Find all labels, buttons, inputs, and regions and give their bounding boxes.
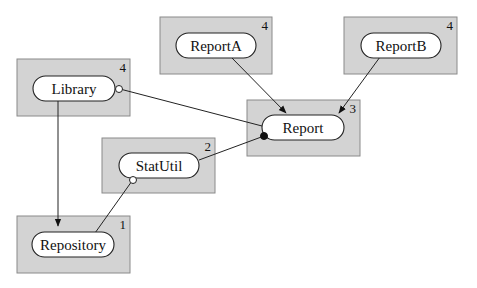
- node-label: Report: [283, 120, 325, 136]
- node-label: Library: [52, 81, 97, 97]
- pill-statutil[interactable]: StatUtil: [119, 153, 199, 178]
- pill-repository[interactable]: Repository: [32, 232, 114, 257]
- pill-library[interactable]: Library: [33, 76, 115, 101]
- filled-circle-icon: [261, 133, 268, 140]
- node-label: ReportA: [190, 38, 242, 54]
- node-label: ReportB: [376, 38, 427, 54]
- pill-report[interactable]: Report: [262, 115, 344, 140]
- level-badge: 2: [205, 139, 212, 154]
- edge-library-report: [120, 89, 262, 126]
- pill-reporta[interactable]: ReportA: [176, 33, 256, 58]
- level-badge: 3: [350, 101, 357, 116]
- dependency-diagram: 4 4 4 3 2 1 Library ReportA ReportB Rep: [0, 0, 477, 288]
- open-circle-icon: [116, 86, 123, 93]
- open-circle-icon: [130, 177, 137, 184]
- pill-reportb[interactable]: ReportB: [361, 33, 441, 58]
- node-label: Repository: [40, 237, 106, 253]
- level-badge: 4: [120, 60, 127, 75]
- level-badge: 4: [447, 18, 454, 33]
- level-badge: 1: [120, 217, 127, 232]
- node-label: StatUtil: [136, 158, 183, 174]
- level-badge: 4: [262, 18, 269, 33]
